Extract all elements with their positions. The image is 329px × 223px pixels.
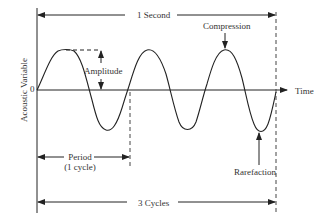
y-axis-label: Acoustic Variable: [19, 58, 29, 122]
time-label: Time: [295, 86, 314, 96]
zero-label: 0: [30, 84, 35, 94]
compression-label: Compression: [203, 21, 251, 31]
period-label-line2: (1 cycle): [64, 162, 96, 172]
rarefaction-label: Rarefaction: [234, 167, 276, 177]
period-label-line1: Period: [68, 152, 92, 162]
one-second-label: 1 Second: [137, 10, 170, 20]
three-cycles-label: 3 Cycles: [138, 198, 169, 208]
sound-wave-diagram: [0, 0, 329, 223]
amplitude-label: Amplitude: [84, 66, 123, 76]
period-label: Period (1 cycle): [60, 152, 100, 172]
